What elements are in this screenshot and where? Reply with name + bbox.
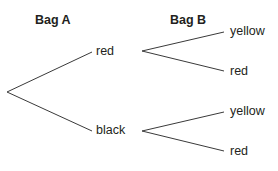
label-bag-a-black: black (96, 124, 125, 137)
label-red-then-yellow: yellow (230, 25, 265, 38)
header-bag-b: Bag B (170, 14, 206, 27)
label-red-then-red: red (230, 65, 248, 78)
branch-root-to-red (7, 52, 92, 92)
tree-diagram: Bag A Bag B red black yellow red yellow … (0, 0, 278, 171)
label-black-then-yellow: yellow (230, 105, 265, 118)
branch-black-to-red (142, 131, 224, 151)
branch-black-to-yellow (142, 112, 224, 131)
header-bag-a: Bag A (35, 14, 71, 27)
label-black-then-red: red (230, 145, 248, 158)
label-bag-a-red: red (96, 45, 114, 58)
branch-red-to-yellow (142, 32, 224, 51)
branch-root-to-black (7, 92, 92, 131)
branch-red-to-red (142, 51, 224, 71)
